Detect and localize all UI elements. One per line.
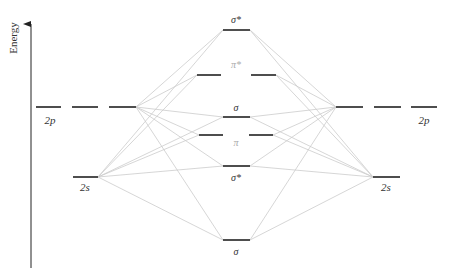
energy-axis-label: Energy — [7, 22, 19, 54]
correlation-line — [250, 177, 373, 240]
pi-star-2p-label: π* — [231, 59, 241, 70]
left-2p-label: 2p — [45, 114, 57, 126]
sigma-star-2p-label: σ* — [231, 14, 241, 25]
correlation-line — [250, 30, 336, 107]
sigma-2s-label: σ — [234, 246, 240, 257]
correlation-line — [98, 177, 223, 240]
correlation-line — [273, 135, 373, 177]
correlation-line — [98, 75, 197, 177]
sigma-star-2s-label: σ* — [231, 172, 241, 183]
orbital-labels: 2p2p2s2sσ*π*σπσ*σ — [45, 14, 431, 257]
correlation-line — [276, 75, 373, 177]
correlation-line — [136, 30, 223, 107]
right-2p-label: 2p — [419, 114, 431, 126]
correlation-line — [98, 30, 223, 177]
right-2s-label: 2s — [381, 181, 391, 193]
correlation-line — [250, 107, 336, 240]
left-2s-label: 2s — [80, 181, 90, 193]
mo-diagram: Energy 2p2p2s2sσ*π*σπσ*σ — [0, 0, 456, 274]
energy-axis: Energy — [7, 22, 31, 268]
correlation-line — [136, 107, 223, 240]
correlation-line — [250, 30, 373, 177]
sigma-2p-label: σ — [234, 102, 240, 113]
correlation-line — [98, 135, 199, 177]
pi-2p-label: π — [233, 137, 239, 148]
